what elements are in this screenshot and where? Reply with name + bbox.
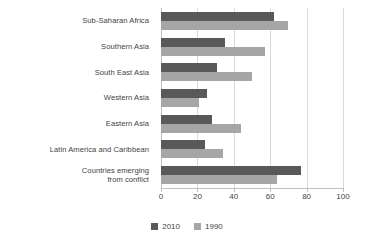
category-axis-labels: Sub-Saharan Africa Southern Asia South E… xyxy=(0,8,155,188)
x-tick-label: 20 xyxy=(193,192,202,201)
bar-2010 xyxy=(161,166,301,175)
bar-chart: Sub-Saharan Africa Southern Asia South E… xyxy=(0,0,374,246)
bar-1990 xyxy=(161,21,288,30)
bar-group xyxy=(161,85,343,111)
bar-2010 xyxy=(161,89,207,98)
bar-group xyxy=(161,8,343,34)
x-tick-label: 80 xyxy=(302,192,311,201)
bar-2010 xyxy=(161,38,225,47)
bar-1990 xyxy=(161,72,252,81)
bar-group xyxy=(161,59,343,85)
category-label: South East Asia xyxy=(0,59,155,85)
bar-group xyxy=(161,34,343,60)
x-axis-line xyxy=(161,188,344,189)
x-tick-label: 100 xyxy=(336,192,349,201)
chart-legend: 2010 1990 xyxy=(0,222,374,231)
bar-2010 xyxy=(161,115,212,124)
bar-2010 xyxy=(161,63,217,72)
bar-2010 xyxy=(161,140,205,149)
gridline xyxy=(343,8,344,188)
bar-group xyxy=(161,137,343,163)
legend-swatch-icon xyxy=(194,223,201,230)
x-tick-label: 40 xyxy=(229,192,238,201)
x-tick-label: 60 xyxy=(266,192,275,201)
legend-label: 2010 xyxy=(162,222,180,231)
x-tick-label: 0 xyxy=(159,192,163,201)
bar-1990 xyxy=(161,124,241,133)
x-axis-tick-labels: 020406080100 xyxy=(161,192,343,204)
bar-1990 xyxy=(161,47,265,56)
legend-item-1990: 1990 xyxy=(194,222,223,231)
bar-groups xyxy=(161,8,343,188)
bar-1990 xyxy=(161,175,277,184)
bar-1990 xyxy=(161,98,199,107)
category-label: Eastern Asia xyxy=(0,111,155,137)
legend-label: 1990 xyxy=(205,222,223,231)
bar-group xyxy=(161,162,343,188)
legend-item-2010: 2010 xyxy=(151,222,180,231)
bar-group xyxy=(161,111,343,137)
plot-area xyxy=(161,8,343,188)
category-label: Latin America and Caribbean xyxy=(0,137,155,163)
category-label: Countries emerging from conflict xyxy=(0,162,155,188)
category-label: Southern Asia xyxy=(0,34,155,60)
bar-1990 xyxy=(161,149,223,158)
category-label: Sub-Saharan Africa xyxy=(0,8,155,34)
category-label: Western Asia xyxy=(0,85,155,111)
bar-2010 xyxy=(161,12,274,21)
legend-swatch-icon xyxy=(151,223,158,230)
